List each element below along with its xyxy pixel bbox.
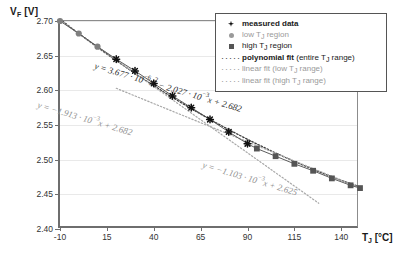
x-axis-tick-label: 90	[230, 232, 266, 242]
y-axis-tick-label: 2.60	[19, 85, 53, 95]
legend-line-swatch: ·····	[220, 53, 242, 64]
chart-figure: VF [V] TJ [°C] 2.702.652.602.552.502.452…	[0, 0, 402, 256]
x-axis-title-unit: [°C]	[372, 232, 393, 243]
circle-marker	[76, 30, 82, 36]
x-axis-tick-label: 140	[323, 232, 359, 242]
legend-line-swatch: ·····	[220, 76, 242, 87]
y-axis-tick-label: 2.55	[19, 120, 53, 130]
square-marker	[291, 161, 297, 167]
square-marker	[310, 168, 316, 174]
star-marker	[188, 104, 195, 111]
star-marker	[244, 140, 251, 147]
x-axis-tick-label: 65	[183, 232, 219, 242]
legend-item-label: measured data	[242, 18, 298, 29]
circle-marker	[57, 18, 63, 24]
star-marker	[113, 56, 120, 63]
x-axis-tick-label: 40	[136, 232, 172, 242]
x-axis-tick-label: -10	[42, 232, 78, 242]
x-axis-title: TJ [°C]	[362, 232, 393, 244]
square-marker	[254, 146, 260, 152]
legend-square-marker	[220, 41, 242, 52]
x-axis-tick-label: 15	[89, 232, 125, 242]
legend-star-marker	[220, 18, 242, 29]
y-axis-tick-label: 2.65	[19, 51, 53, 61]
legend: measured datalow TJ regionhigh TJ region…	[215, 13, 387, 92]
circle-marker	[94, 44, 100, 50]
legend-line-swatch: ·····	[220, 64, 242, 75]
square-marker	[348, 182, 354, 188]
star-marker	[225, 129, 232, 136]
square-marker	[273, 153, 279, 159]
y-axis-tick-label: 2.50	[19, 155, 53, 165]
star-marker	[207, 116, 214, 123]
square-marker	[357, 185, 363, 191]
y-axis-tick-label: 2.45	[19, 189, 53, 199]
legend-circle-marker	[220, 30, 242, 41]
square-marker	[329, 175, 335, 181]
legend-item-label: linear fit (high TJ range)	[242, 75, 326, 88]
y-axis-tick-label: 2.70	[19, 16, 53, 26]
y-axis-title-symbol: V	[10, 6, 17, 17]
x-axis-tick-label: 115	[276, 232, 312, 242]
legend-item: ·····linear fit (high TJ range)	[220, 76, 381, 88]
